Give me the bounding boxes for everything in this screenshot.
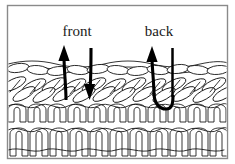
knit-stitch-diagram: front back [0,0,235,164]
label-back: back [145,23,174,39]
label-front: front [62,23,92,39]
